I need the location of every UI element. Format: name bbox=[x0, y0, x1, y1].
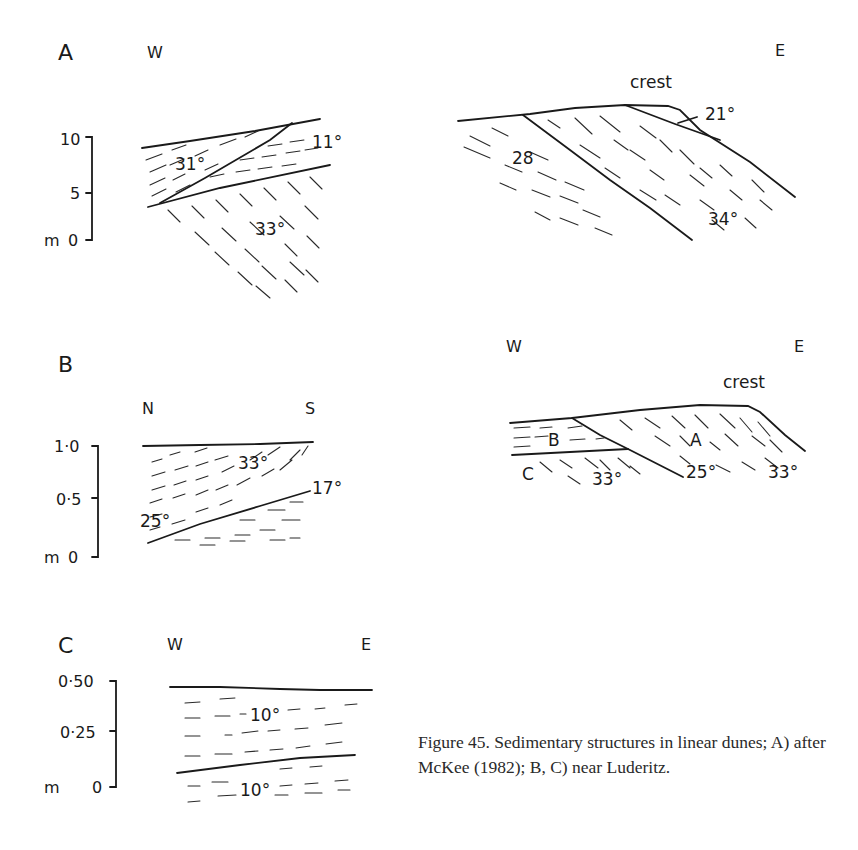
scale-bar-c bbox=[110, 681, 116, 787]
panel-b-right: W E crest B A C 33° 25° 33° bbox=[506, 337, 805, 489]
crest-label: crest bbox=[723, 372, 765, 392]
panel-label-c: C bbox=[58, 633, 73, 658]
angle-11: 11° bbox=[312, 132, 342, 152]
direction-east: E bbox=[794, 337, 804, 356]
scale-tick-0: 0 bbox=[68, 231, 78, 250]
angle-33-c: 33° bbox=[592, 469, 622, 489]
surface-base-b bbox=[512, 449, 628, 455]
cross-bedding-unit-c bbox=[540, 458, 640, 484]
sedimentary-structures-figure: A W 10 5 m 0 31° 11° 33° E crest 28 21° … bbox=[0, 0, 858, 850]
direction-west: W bbox=[147, 43, 163, 62]
scale-unit: m bbox=[44, 231, 60, 250]
panel-a-right: E crest 28 21° 34° bbox=[458, 41, 795, 240]
angle-10-lower: 10° bbox=[240, 780, 270, 800]
scale-bar-a bbox=[86, 137, 92, 240]
angle-25: 25° bbox=[140, 511, 170, 531]
crest-label: crest bbox=[630, 72, 672, 92]
angle-33: 33° bbox=[255, 219, 285, 239]
scale-bar-b bbox=[92, 446, 98, 557]
panel-c: C W E 0·50 0·25 m 0 10° 10° bbox=[44, 633, 372, 802]
panel-a-left: A W 10 5 m 0 31° 11° 33° bbox=[44, 40, 342, 298]
unit-label-c: C bbox=[522, 464, 534, 484]
scale-unit: m bbox=[44, 548, 60, 567]
direction-west: W bbox=[167, 635, 183, 654]
direction-north: N bbox=[142, 399, 154, 418]
unit-label-a: A bbox=[690, 430, 702, 450]
scale-tick-0: 0 bbox=[68, 548, 78, 567]
panel-label-a: A bbox=[58, 40, 73, 65]
scale-tick-0-25: 0·25 bbox=[60, 723, 96, 742]
cross-bedding-28 bbox=[464, 128, 612, 235]
scale-tick-5: 5 bbox=[70, 184, 80, 203]
scale-tick-0: 0 bbox=[92, 778, 102, 797]
surface-lower bbox=[148, 491, 310, 543]
direction-west: W bbox=[506, 337, 522, 356]
cross-bedding-33-25 bbox=[150, 446, 308, 530]
scale-tick-0-50: 0·50 bbox=[58, 672, 94, 691]
dune-profile bbox=[458, 105, 795, 197]
angle-21: 21° bbox=[705, 104, 735, 124]
panel-b-left: B N S 1·0 0·5 m 0 33° 17° 25° bbox=[44, 352, 342, 567]
cross-bedding-34 bbox=[548, 116, 772, 230]
direction-south: S bbox=[305, 399, 315, 418]
angle-10-upper: 10° bbox=[250, 705, 280, 725]
angle-33-a: 33° bbox=[768, 462, 798, 482]
surface-top bbox=[143, 442, 313, 446]
bounding-surface-west bbox=[523, 115, 692, 240]
figure-caption: Figure 45. Sedimentary structures in lin… bbox=[418, 730, 858, 780]
scale-tick-1-0: 1·0 bbox=[54, 437, 79, 456]
angle-28: 28 bbox=[512, 148, 534, 168]
angle-17: 17° bbox=[312, 478, 342, 498]
direction-east: E bbox=[361, 635, 371, 654]
angle-31: 31° bbox=[175, 154, 205, 174]
panel-label-b: B bbox=[58, 352, 73, 377]
scale-tick-10: 10 bbox=[60, 130, 80, 149]
scale-tick-0-5: 0·5 bbox=[56, 490, 81, 509]
surface-top bbox=[142, 119, 320, 148]
surface-top bbox=[170, 687, 372, 690]
cross-bedding-17 bbox=[175, 502, 303, 545]
scale-unit: m bbox=[44, 778, 60, 797]
angle-33: 33° bbox=[238, 453, 268, 473]
direction-east: E bbox=[775, 41, 785, 60]
unit-label-b: B bbox=[548, 430, 560, 450]
surface-middle bbox=[177, 755, 355, 773]
angle-25: 25° bbox=[686, 462, 716, 482]
angle-34: 34° bbox=[708, 209, 738, 229]
